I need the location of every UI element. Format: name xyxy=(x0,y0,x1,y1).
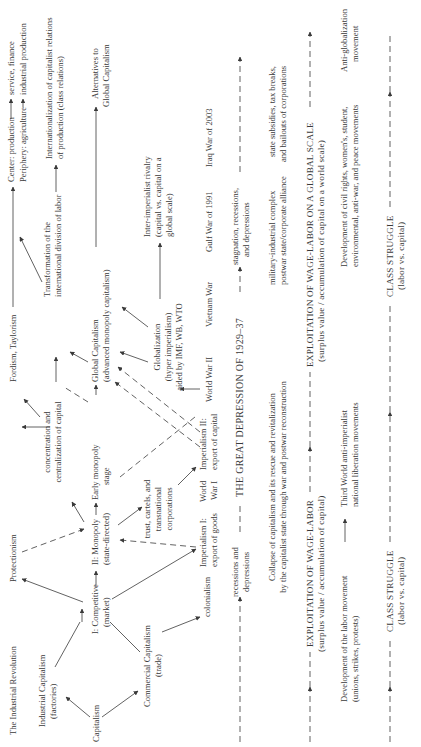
transformation-label: Transformation of theinternational divis… xyxy=(42,194,63,297)
ww1-label: WorldWar I xyxy=(198,480,219,502)
capitalism-to-commercial-arrow xyxy=(102,691,138,717)
concentration-label: concentration andcentralization of capit… xyxy=(42,401,63,483)
global-capitalism-label: Global Capitalism(advanced monopoly capi… xyxy=(90,269,111,382)
ww2-label: World War II xyxy=(204,357,214,402)
globalization-label: Globalization(hyper imperialism)aided by… xyxy=(152,303,184,391)
capitalism-to-industrial-arrow xyxy=(66,697,90,717)
commercial-to-competitive-line xyxy=(110,622,140,652)
imperialism2-to-global-dash-b xyxy=(118,367,200,432)
industrial-to-competitive-line xyxy=(55,622,80,667)
alternatives-label: Alternatives toGlobal Capitalism xyxy=(90,44,111,107)
labor-movement-label: Development of the labor movement(unions… xyxy=(339,575,360,702)
transformation-to-center-arrow xyxy=(20,237,42,282)
civil-rights-label: Development of civil rights, women's, st… xyxy=(339,104,360,267)
monopoly-to-trusts-arrow xyxy=(118,507,142,525)
monopoly-to-concentration-arrow xyxy=(72,502,84,522)
third-world-label: Third World anti-imperialistnational lib… xyxy=(339,402,360,507)
center-target-label: service, finance xyxy=(6,41,16,95)
vietnam-label: Vietnam War xyxy=(204,282,214,327)
commercial-to-colonialism-arrow xyxy=(162,617,200,632)
early-monopoly-label: Early monopolystage xyxy=(90,444,111,500)
anti-globalization-label: Anti-globalizationmovement xyxy=(339,8,360,72)
early-monopoly-to-concentration-dash xyxy=(64,387,88,402)
concentration-to-fordism-arrow xyxy=(24,399,40,417)
recessions-label: recessions anddepressions xyxy=(230,546,251,597)
class-struggle-label-1: CLASS STRUGGLE(labor vs. capital) xyxy=(385,550,406,632)
exploitation-label: EXPLOITATION OF WAGE-LABOR(surplus value… xyxy=(305,496,326,652)
center-production-label: Center: production xyxy=(6,117,16,182)
class-struggle-label-2: CLASS STRUGGLE(labor vs. capital) xyxy=(385,215,406,297)
monopoly-label: II: Monopoly(state-directed) xyxy=(90,513,111,565)
exploitation-global-label: EXPLOITATION OF WAGE-LABOR ON A GLOBAL S… xyxy=(305,122,326,367)
globalization-to-global-arrow xyxy=(122,307,148,327)
military-label: military-industrial complexpostwar state… xyxy=(267,176,288,285)
imperialism1-label: Imperialism I:export of goods xyxy=(198,512,219,567)
imperialism2-to-global-dash-a xyxy=(115,382,200,447)
protectionism-to-monopoly-dash xyxy=(22,529,84,552)
early-to-imperialism2-dash-a xyxy=(120,417,195,477)
internationalization-label: Internationalization of capitalist relat… xyxy=(44,17,65,159)
capitalism-label: Capitalism xyxy=(91,704,101,742)
stagnation-label: stagnation, recessions,and depressions xyxy=(230,188,251,265)
global-to-globalization-arrow xyxy=(120,352,148,362)
competitive-label: I: Competitive(market) xyxy=(90,584,111,634)
iraq-war-label: Iraq War of 2003 xyxy=(204,108,214,167)
trusts-label: trust, cartels, andtransnationalcorporat… xyxy=(142,479,174,538)
industrial-capitalism-label: Industrial Capitalism(factories) xyxy=(37,654,58,727)
periphery-target-label: industrial production xyxy=(18,22,28,95)
capitalism-diagram: The Industrial Revolution Protectionism … xyxy=(0,0,421,747)
competitive-to-imperialism1-arrow xyxy=(112,549,196,599)
subsidies-label: state subsidies, tax breaks,and bailouts… xyxy=(267,65,288,162)
commercial-capitalism-label: Commercial Capitalism(trade) xyxy=(142,625,163,707)
imperialism2-label: Imperialism II:export of capital xyxy=(198,413,219,470)
trusts-to-imperialism2-arrow xyxy=(178,467,196,485)
inter-imperialist-label: Inter-imperialist rivalry(capital vs. ca… xyxy=(142,156,174,237)
fordism-label: Fordism, Taylorism xyxy=(8,314,18,382)
periphery-label: Periphery: agriculture xyxy=(18,107,28,182)
great-depression-label: THE GREAT DEPRESSION OF 1929–37 xyxy=(234,318,245,497)
competitive-to-protectionism-arrow xyxy=(22,579,83,602)
collapse-label: Collapse of capitalism and its rescue an… xyxy=(267,381,288,593)
imperialism1-to-monopoly-dash xyxy=(120,540,196,547)
gulf-war-label: Gulf War of 1991 xyxy=(204,192,214,253)
industrial-revolution-label: The Industrial Revolution xyxy=(8,646,18,735)
protectionism-label: Protectionism xyxy=(8,534,18,582)
global-to-transformation-arrow xyxy=(70,352,88,362)
colonialism-label: colonialism xyxy=(202,577,212,617)
